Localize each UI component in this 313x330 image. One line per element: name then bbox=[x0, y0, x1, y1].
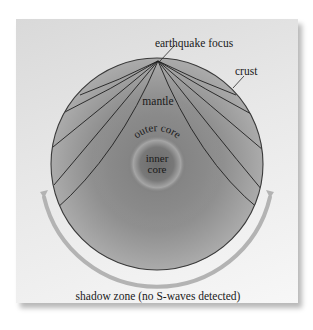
earth-cross-section-diagram: earthquake focus crust mantle outer core… bbox=[0, 0, 313, 330]
crust-leader-line bbox=[233, 76, 244, 88]
crust-label: crust bbox=[235, 65, 258, 77]
inner-core-label-line2: core bbox=[148, 163, 167, 175]
mantle-label: mantle bbox=[142, 95, 173, 107]
arrow-head-right-icon bbox=[266, 190, 274, 198]
arrow-head-left-icon bbox=[40, 190, 48, 198]
focus-label: earthquake focus bbox=[155, 37, 234, 50]
shadow-zone-label: shadow zone (no S-waves detected) bbox=[76, 290, 241, 303]
